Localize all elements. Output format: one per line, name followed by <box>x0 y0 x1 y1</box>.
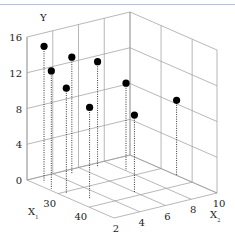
data-point <box>68 54 75 61</box>
tick-label: 0 <box>16 175 22 186</box>
tick-label: 8 <box>190 204 196 215</box>
tick-label: 40 <box>74 211 87 222</box>
data-points <box>40 43 180 119</box>
tick-label: 12 <box>9 68 22 79</box>
tick-label: 10 <box>213 198 226 209</box>
scatter-3d-plot: 04812163040246810 Y X1 X2 <box>0 0 235 245</box>
y-axis-label: Y <box>39 12 47 23</box>
data-point <box>173 97 180 104</box>
tick-label: 16 <box>9 32 22 43</box>
data-point <box>122 80 129 87</box>
x1-axis-label: X1 <box>28 206 38 220</box>
data-point <box>86 104 93 111</box>
data-point <box>48 67 55 74</box>
tick-label: 8 <box>16 104 22 115</box>
tick-label: 2 <box>113 223 119 234</box>
tick-label: 6 <box>164 211 170 222</box>
tick-label: 30 <box>43 198 56 209</box>
tick-label: 4 <box>139 217 145 228</box>
tick-label: 4 <box>16 139 22 150</box>
x2-axis-label: X2 <box>210 209 220 223</box>
tick-labels: 04812163040246810 <box>9 32 225 234</box>
data-point <box>131 111 138 118</box>
data-point <box>40 43 47 50</box>
grid-lines <box>27 12 217 218</box>
drop-lines <box>44 46 177 198</box>
data-point <box>94 58 101 65</box>
data-point <box>63 85 70 92</box>
